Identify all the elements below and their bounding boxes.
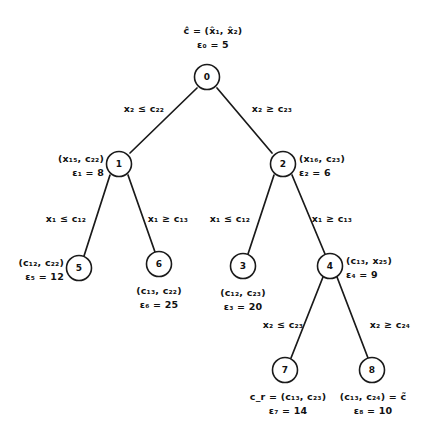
branch-and-bound-tree-diagram: 0 1 2 5 6 3 4 7 8 ĉ = (x̂₁, x̂₂) ε₀ = 5 … (0, 0, 427, 436)
node-label-3: (c₁₂, c₂₃) ε₃ = 20 (220, 286, 266, 314)
edge-label-1-5: x₁ ≤ c₁₂ (46, 214, 86, 225)
node-label-8-line1: (c₁₃, c₂₄) = c̃ (340, 391, 407, 402)
node-label-8-line2: ε₈ = 10 (340, 404, 407, 418)
node-id-5: 5 (76, 264, 82, 273)
node-id-2: 2 (280, 160, 286, 169)
node-label-7: c_r = (c₁₃, c₂₃) ε₇ = 14 (250, 390, 326, 418)
edge-label-4-7: x₂ ≤ c₂₃ (263, 320, 303, 331)
node-id-8: 8 (369, 366, 375, 375)
node-label-7-line2: ε₇ = 14 (250, 404, 326, 418)
edge-0-to-2 (217, 88, 272, 153)
edge-2-to-3 (248, 175, 274, 254)
node-label-5: (c₁₂, c₂₂) ε₅ = 12 (18, 256, 64, 284)
node-id-1: 1 (116, 160, 122, 169)
edge-label-1-6: x₁ ≥ c₁₃ (148, 214, 188, 225)
node-id-4: 4 (327, 262, 333, 271)
node-label-0-line2: ε₀ = 5 (184, 38, 243, 52)
edge-label-0-1: x₂ ≤ c₂₂ (124, 104, 164, 115)
node-id-7: 7 (282, 366, 288, 375)
edge-label-2-4: x₁ ≥ c₁₃ (312, 214, 352, 225)
node-label-1-line2: ε₁ = 8 (58, 166, 104, 180)
node-label-5-line1: (c₁₂, c₂₂) (18, 257, 64, 268)
node-label-4: (c₁₃, x₂₅) ε₄ = 9 (346, 254, 392, 282)
node-label-2-line1: (x₁₆, c₂₃) (299, 153, 345, 164)
node-label-5-line2: ε₅ = 12 (18, 270, 64, 284)
node-label-1: (x₁₅, c₂₂) ε₁ = 8 (58, 152, 104, 180)
node-id-3: 3 (240, 262, 246, 271)
edge-label-0-2: x₂ ≥ c₂₃ (252, 104, 292, 115)
node-label-8: (c₁₃, c₂₄) = c̃ ε₈ = 10 (340, 390, 407, 418)
edge-0-to-1 (130, 88, 197, 153)
node-label-6: (c₁₃, c₂₂) ε₆ = 25 (136, 284, 182, 312)
edge-1-to-5 (84, 175, 110, 256)
node-label-0: ĉ = (x̂₁, x̂₂) ε₀ = 5 (184, 24, 243, 52)
node-label-6-line2: ε₆ = 25 (136, 298, 182, 312)
node-label-2-line2: ε₂ = 6 (299, 166, 345, 180)
edge-4-to-7 (291, 277, 323, 358)
node-label-0-line1: ĉ = (x̂₁, x̂₂) (184, 25, 243, 36)
edge-label-2-3: x₁ ≤ c₁₂ (210, 214, 250, 225)
node-label-7-line1: c_r = (c₁₃, c₂₃) (250, 391, 326, 402)
node-label-3-line1: (c₁₂, c₂₃) (220, 287, 266, 298)
node-label-6-line1: (c₁₃, c₂₂) (136, 285, 182, 296)
node-label-1-line1: (x₁₅, c₂₂) (58, 153, 104, 164)
node-label-4-line2: ε₄ = 9 (346, 268, 392, 282)
node-id-0: 0 (204, 73, 210, 82)
node-label-4-line1: (c₁₃, x₂₅) (346, 255, 392, 266)
edge-4-to-8 (337, 277, 368, 358)
edge-label-4-8: x₂ ≥ c₂₄ (370, 320, 410, 331)
node-id-6: 6 (156, 260, 162, 269)
node-label-2: (x₁₆, c₂₃) ε₂ = 6 (299, 152, 345, 180)
node-label-3-line2: ε₃ = 20 (220, 300, 266, 314)
